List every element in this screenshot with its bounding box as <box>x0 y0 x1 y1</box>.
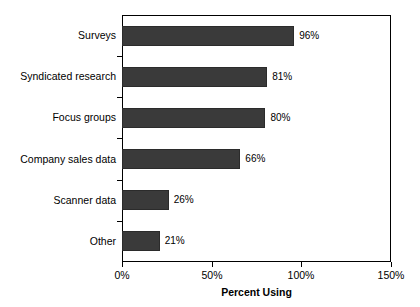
bar-value-label: 21% <box>165 236 185 246</box>
bars-layer: 96% 81% 80% 66% 26% 21% <box>122 15 391 262</box>
x-axis-tick <box>122 262 123 267</box>
bar[interactable] <box>122 67 267 87</box>
bar[interactable] <box>122 149 240 169</box>
bar[interactable] <box>122 26 294 46</box>
bar-row: 26% <box>122 180 391 221</box>
x-axis-tick-label: 50% <box>201 269 222 281</box>
x-axis-tick-label: 0% <box>114 269 129 281</box>
bar-value-label: 66% <box>245 154 265 164</box>
x-axis-tick-label: 150% <box>378 269 405 281</box>
category-axis-labels: Surveys Syndicated research Focus groups… <box>0 15 116 262</box>
x-axis-tick <box>391 262 392 267</box>
bar-row: 21% <box>122 221 391 262</box>
category-label: Syndicated research <box>0 56 116 97</box>
category-label: Scanner data <box>0 180 116 221</box>
bar-row: 66% <box>122 139 391 180</box>
bar-row: 96% <box>122 15 391 56</box>
bar[interactable] <box>122 190 169 210</box>
bar-row: 80% <box>122 97 391 138</box>
bar[interactable] <box>122 108 265 128</box>
bar-value-label: 26% <box>174 195 194 205</box>
category-label: Company sales data <box>0 139 116 180</box>
x-axis-tick-label: 100% <box>288 269 315 281</box>
bar-row: 81% <box>122 56 391 97</box>
category-label: Surveys <box>0 15 116 56</box>
bar-value-label: 96% <box>299 31 319 41</box>
x-axis-title: Percent Using <box>122 286 391 298</box>
bar-value-label: 81% <box>272 72 292 82</box>
category-label: Focus groups <box>0 97 116 138</box>
horizontal-bar-chart: Surveys Syndicated research Focus groups… <box>0 0 420 307</box>
x-axis-tick <box>212 262 213 267</box>
bar-value-label: 80% <box>270 113 290 123</box>
category-label: Other <box>0 221 116 262</box>
x-axis-tick <box>301 262 302 267</box>
bar[interactable] <box>122 231 160 251</box>
